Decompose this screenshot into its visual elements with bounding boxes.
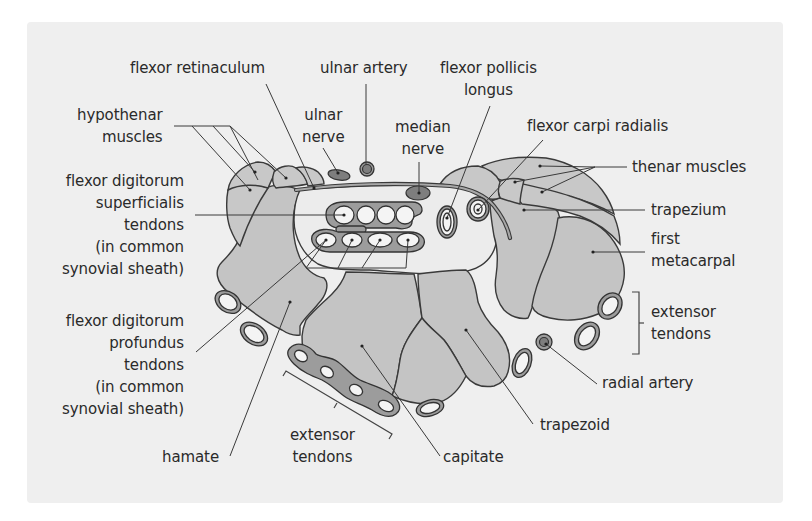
label-first-metacarpal: first metacarpal — [651, 228, 735, 272]
label-hamate: hamate — [162, 446, 219, 468]
fds-tendon-2 — [357, 206, 375, 224]
bracket-extensor-right — [632, 292, 639, 354]
label-hypothenar-muscles: hypothenar muscles — [77, 104, 163, 148]
label-flexor-carpi-radialis: flexor carpi radialis — [527, 115, 668, 137]
ulnar-nerve — [327, 168, 350, 182]
label-ulnar-artery: ulnar artery — [320, 57, 408, 79]
label-median-nerve: median nerve — [395, 116, 451, 160]
fds-tendon-4 — [396, 206, 414, 224]
label-ulnar-nerve: ulnar nerve — [302, 104, 345, 148]
extensor-tendon-radial-2 — [569, 317, 604, 354]
label-flexor-pollicis-longus: flexor pollicis longus — [440, 57, 537, 101]
extensor-tendon-left-2 — [236, 317, 272, 351]
label-fdp-tendons: flexor digitorum profundus tendons (in c… — [62, 310, 184, 420]
fds-tendon-3 — [377, 206, 395, 224]
label-trapezoid: trapezoid — [540, 414, 610, 436]
hypothenar-muscle-upper — [228, 162, 276, 190]
label-extensor-tendons-right: extensor tendons — [651, 301, 716, 345]
label-capitate: capitate — [443, 446, 504, 468]
extensor-tendon-radial-1 — [508, 346, 535, 380]
label-thenar-muscles: thenar muscles — [632, 156, 746, 178]
label-trapezium: trapezium — [651, 199, 726, 221]
label-radial-artery: radial artery — [602, 372, 693, 394]
label-flexor-retinaculum: flexor retinaculum — [130, 57, 265, 79]
label-fds-tendons: flexor digitorum superficialis tendons (… — [62, 170, 184, 280]
label-extensor-tendons-bottom: extensor tendons — [290, 424, 355, 468]
